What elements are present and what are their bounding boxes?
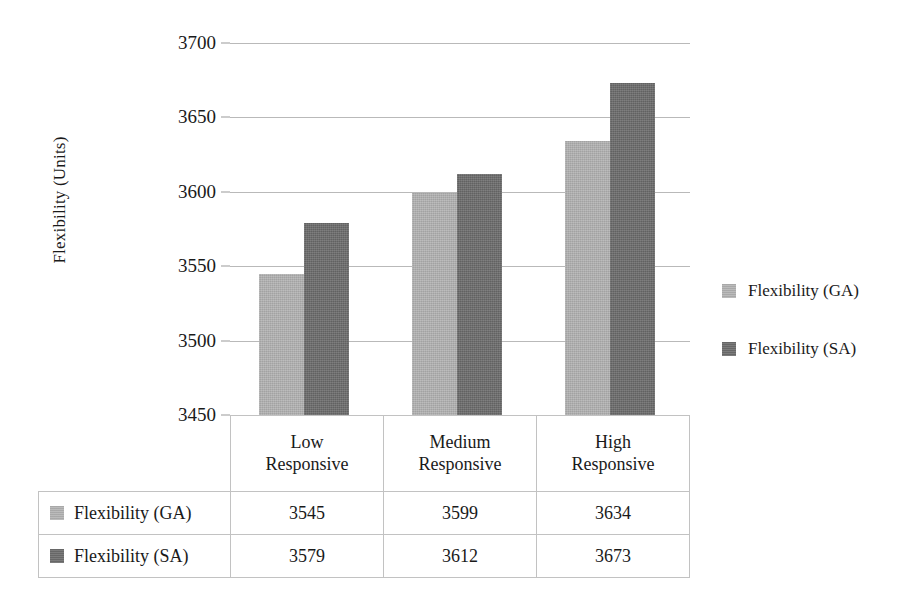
y-tick-mark-3700 — [221, 43, 230, 44]
bar-sa-1 — [457, 174, 502, 415]
category-header-line: Responsive — [266, 454, 349, 474]
table-swatch-icon-ga — [50, 506, 64, 520]
table-row: Flexibility (GA)354535993634 — [39, 492, 690, 535]
table-column-header-2: HighResponsive — [537, 416, 690, 492]
legend-item-sa[interactable]: Flexibility (SA) — [722, 320, 907, 378]
category-header-line: Medium — [430, 432, 491, 452]
legend-swatch-icon-sa — [722, 342, 736, 356]
legend-swatch-icon-ga — [722, 284, 736, 298]
bar-ga-1 — [412, 193, 457, 415]
chart-figure: Flexibility (Units) 37003650360035503500… — [0, 0, 909, 606]
legend-label: Flexibility (GA) — [748, 281, 859, 301]
table-header-row: LowResponsiveMediumResponsiveHighRespons… — [39, 416, 690, 492]
y-tick-label-3550: 3550 — [178, 255, 216, 277]
table-column-header-0: LowResponsive — [231, 416, 384, 492]
bar-sa-2 — [610, 83, 655, 415]
gridline-3700 — [230, 43, 690, 44]
chart-legend: Flexibility (GA)Flexibility (SA) — [722, 262, 907, 378]
table-series-cell-ga: Flexibility (GA) — [39, 492, 231, 535]
y-axis-title: Flexibility (Units) — [50, 80, 70, 320]
y-tick-label-3500: 3500 — [178, 329, 216, 351]
table-value-cell-0-2: 3634 — [537, 492, 690, 535]
chart-data-table: LowResponsiveMediumResponsiveHighRespons… — [38, 415, 690, 578]
y-tick-mark-3500 — [221, 340, 230, 341]
y-tick-label-3650: 3650 — [178, 106, 216, 128]
table-corner-cell — [39, 416, 231, 492]
y-tick-label-3600: 3600 — [178, 180, 216, 202]
category-header-line: Responsive — [572, 454, 655, 474]
plot-area: 370036503600355035003450 — [230, 43, 690, 415]
y-tick-mark-3550 — [221, 266, 230, 267]
category-header-line: High — [595, 432, 631, 452]
table-value-cell-1-2: 3673 — [537, 535, 690, 578]
table-series-label: Flexibility (GA) — [74, 503, 192, 524]
table-value-cell-0-0: 3545 — [231, 492, 384, 535]
table-series-cell-sa: Flexibility (SA) — [39, 535, 231, 578]
y-tick-label-3700: 3700 — [178, 32, 216, 54]
table-column-header-1: MediumResponsive — [384, 416, 537, 492]
legend-item-ga[interactable]: Flexibility (GA) — [722, 262, 907, 320]
table-value-cell-0-1: 3599 — [384, 492, 537, 535]
table-row: Flexibility (SA)357936123673 — [39, 535, 690, 578]
table-series-label: Flexibility (SA) — [74, 546, 189, 567]
category-header-line: Responsive — [419, 454, 502, 474]
bar-ga-0 — [259, 274, 304, 415]
bar-sa-0 — [304, 223, 349, 415]
table-value-cell-1-0: 3579 — [231, 535, 384, 578]
category-header-line: Low — [291, 432, 324, 452]
y-tick-mark-3600 — [221, 191, 230, 192]
table-swatch-icon-sa — [50, 549, 64, 563]
y-tick-mark-3650 — [221, 117, 230, 118]
legend-label: Flexibility (SA) — [748, 339, 856, 359]
table-value-cell-1-1: 3612 — [384, 535, 537, 578]
bar-ga-2 — [565, 141, 610, 415]
